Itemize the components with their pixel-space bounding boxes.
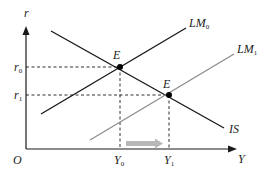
e0-label: E	[112, 48, 121, 62]
lm1-curve	[90, 54, 234, 140]
origin-label: O	[13, 153, 22, 167]
guide-lines	[26, 67, 169, 149]
is-label: IS	[228, 122, 239, 136]
is-lm-diagram: r Y O r0 r1 Y0 Y1 E E LM0 LM1 IS	[0, 0, 266, 174]
lm0-label: LM0	[188, 16, 210, 31]
is-curve	[51, 31, 224, 128]
x-axis-arrow-icon	[228, 146, 237, 153]
y0-label: Y0	[114, 153, 125, 168]
r1-label: r1	[14, 88, 23, 103]
lm1-label: LM1	[236, 42, 258, 57]
shift-arrow-icon	[126, 139, 163, 149]
lm0-curve	[41, 28, 186, 114]
y-axis-label: r	[24, 6, 29, 20]
equilibrium-e0-point	[117, 64, 123, 70]
e1-label: E	[162, 77, 171, 91]
x-axis-label: Y	[238, 152, 246, 166]
y1-label: Y1	[164, 153, 175, 168]
r0-label: r0	[14, 60, 23, 75]
y-axis-arrow-icon	[23, 26, 30, 35]
equilibrium-e1-point	[166, 92, 172, 98]
axes	[23, 26, 238, 153]
